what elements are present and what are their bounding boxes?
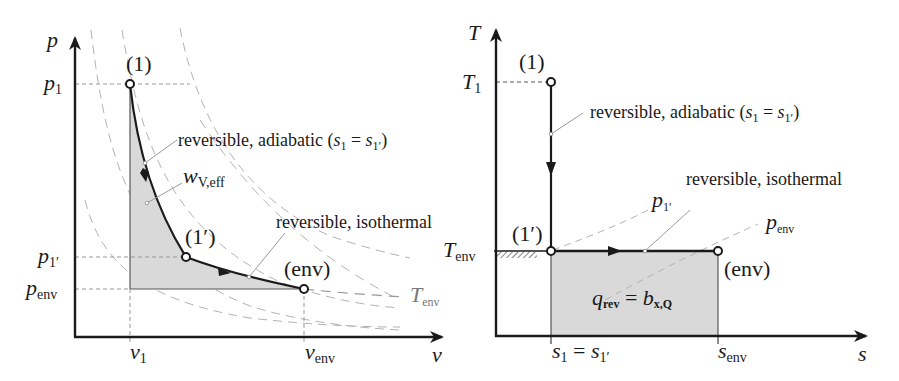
pv-adiabatic-annotation: reversible, adiabatic (s1 = s1′) bbox=[178, 130, 387, 153]
ts-y-axis-label: T bbox=[468, 20, 482, 45]
pv-x-axis-label: v bbox=[432, 342, 442, 367]
pv-ytick-p1: p1 bbox=[42, 70, 62, 97]
pv-state-1prime-marker bbox=[182, 253, 190, 261]
figure-canvas: p v p1 p1′ penv v1 venv (1) (1′) (env) r… bbox=[0, 0, 899, 381]
ts-isobar-p1prime bbox=[553, 208, 652, 250]
ts-isobar-penv-label: penv bbox=[764, 209, 794, 236]
ts-adiabatic-annotation: reversible, adiabatic (s1 = s1′) bbox=[590, 102, 799, 125]
pv-tenv-isotherm-label: Tenv bbox=[410, 282, 440, 309]
ts-state-1-label: (1) bbox=[519, 49, 545, 74]
pv-state-env-label: (env) bbox=[284, 256, 330, 281]
pv-state-1-marker bbox=[126, 80, 134, 88]
pv-xtick-v1: v1 bbox=[130, 339, 147, 366]
ts-state-env-label: (env) bbox=[724, 256, 770, 281]
ts-adiabatic-direction-arrow bbox=[546, 162, 556, 176]
pv-work-label: wV,eff bbox=[183, 163, 225, 190]
pv-state-env-marker bbox=[300, 285, 308, 293]
ts-state-1-marker bbox=[547, 78, 555, 86]
ts-state-1prime-marker bbox=[547, 247, 555, 255]
ts-environment-hatching bbox=[497, 252, 537, 258]
pv-ytick-p1prime: p1′ bbox=[36, 243, 59, 270]
ts-leader-lines bbox=[551, 113, 690, 251]
ts-diagram: T s T1 Tenv s1 = s1′ senv (1) (1′) (env)… bbox=[443, 20, 867, 366]
pv-xtick-venv: venv bbox=[305, 339, 335, 366]
ts-state-env-marker bbox=[714, 247, 722, 255]
pv-ytick-penv: penv bbox=[24, 275, 57, 302]
pv-state-1-label: (1) bbox=[126, 51, 152, 76]
pv-state-1prime-label: (1′) bbox=[185, 224, 215, 249]
ts-x-axis-label: s bbox=[858, 341, 867, 366]
ts-isobar-p1prime-label: p1′ bbox=[650, 187, 672, 214]
pv-tenv-isotherm bbox=[304, 289, 405, 297]
ts-ytick-t1: T1 bbox=[462, 69, 481, 96]
ts-xtick-s1: s1 = s1′ bbox=[552, 338, 610, 365]
pv-reference-lines bbox=[75, 84, 304, 345]
ts-state-1prime-label: (1′) bbox=[512, 221, 542, 246]
pv-y-axis-label: p bbox=[45, 27, 58, 52]
ts-isothermal-annotation: reversible, isothermal bbox=[686, 169, 842, 189]
ts-ytick-tenv: Tenv bbox=[443, 237, 475, 264]
pv-isothermal-annotation: reversible, isothermal bbox=[276, 212, 432, 232]
pv-diagram: p v p1 p1′ penv v1 venv (1) (1′) (env) r… bbox=[24, 27, 442, 367]
ts-xtick-senv: senv bbox=[718, 338, 747, 365]
